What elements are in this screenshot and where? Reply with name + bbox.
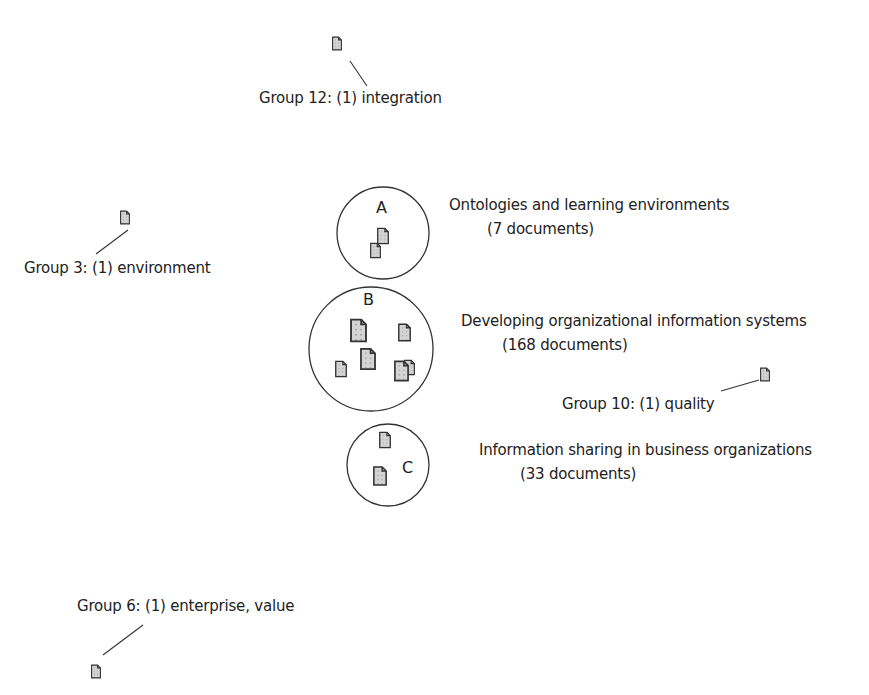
group-12-node[interactable] xyxy=(333,37,367,86)
document-icon xyxy=(378,228,389,243)
cluster-a-letter: A xyxy=(376,198,387,217)
document-icon xyxy=(351,320,366,342)
connector-line xyxy=(350,61,367,86)
cluster-a-count: (7 documents) xyxy=(487,220,594,238)
group-12-label: Group 12: (1) integration xyxy=(259,89,442,107)
group-6-node[interactable] xyxy=(92,625,143,678)
document-icon xyxy=(399,324,410,341)
cluster-b-count: (168 documents) xyxy=(502,336,628,354)
document-icon xyxy=(761,368,770,381)
cluster-b-letter: B xyxy=(363,290,374,309)
cluster-b-title: Developing organizational information sy… xyxy=(461,312,807,330)
document-icon xyxy=(333,37,342,50)
cluster-c[interactable] xyxy=(347,424,429,506)
connector-line xyxy=(96,230,128,254)
group-3-label: Group 3: (1) environment xyxy=(24,259,211,277)
group-6-label: Group 6: (1) enterprise, value xyxy=(77,597,294,615)
cluster-c-letter: C xyxy=(402,458,413,477)
document-icon xyxy=(380,432,391,447)
connector-line xyxy=(721,380,759,391)
document-icon xyxy=(395,361,408,380)
document-icon xyxy=(361,349,375,369)
group-10-node[interactable] xyxy=(721,368,769,391)
document-icon xyxy=(121,211,130,224)
connector-line xyxy=(103,625,143,655)
cluster-a-title: Ontologies and learning environments xyxy=(449,196,729,214)
group-10-label: Group 10: (1) quality xyxy=(562,395,714,413)
group-3-node[interactable] xyxy=(96,211,129,254)
document-icon xyxy=(92,665,101,678)
document-icon xyxy=(336,361,347,376)
cluster-c-title: Information sharing in business organiza… xyxy=(479,441,812,459)
document-icon xyxy=(371,243,381,257)
document-icon xyxy=(374,467,386,485)
cluster-c-count: (33 documents) xyxy=(520,465,636,483)
